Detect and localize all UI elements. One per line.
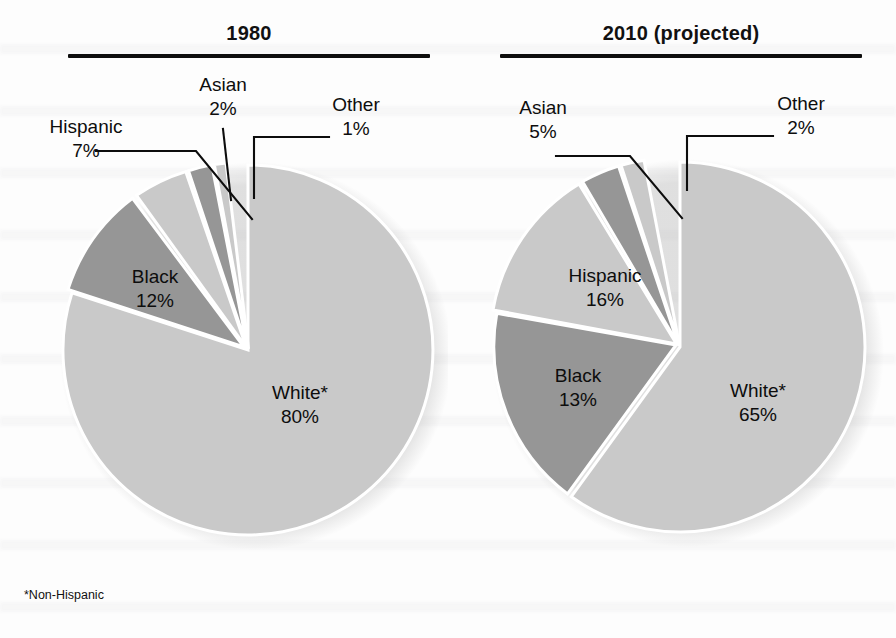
label-white-pct-2010: 65% xyxy=(739,404,777,425)
footnote-non-hispanic: *Non-Hispanic xyxy=(24,588,104,602)
label-asian-name-1980: Asian xyxy=(199,74,247,95)
label-asian-pct-2010: 5% xyxy=(529,121,557,142)
label-black-name-1980: Black xyxy=(132,266,179,287)
label-black-pct-2010: 13% xyxy=(559,389,597,410)
label-other-pct-1980: 1% xyxy=(342,118,370,139)
pie-chart-1980: Hispanic 7% Asian 2% Other 1% Black 12% … xyxy=(0,38,448,638)
label-black-name-2010: Black xyxy=(555,365,602,386)
label-hispanic-pct-2010: 16% xyxy=(586,289,624,310)
label-asian-name-2010: Asian xyxy=(519,97,567,118)
label-white-name-1980: White* xyxy=(272,382,329,403)
label-black-pct-1980: 12% xyxy=(136,290,174,311)
label-hispanic-name-1980: Hispanic xyxy=(50,116,123,137)
label-other-name-1980: Other xyxy=(332,94,380,115)
label-white-name-2010: White* xyxy=(730,380,787,401)
pie-slices-1980 xyxy=(63,163,433,535)
chart-stage: 1980 Hispani xyxy=(0,0,896,638)
label-hispanic-name-2010: Hispanic xyxy=(569,265,642,286)
label-other-pct-2010: 2% xyxy=(787,117,815,138)
label-white-pct-1980: 80% xyxy=(281,406,319,427)
label-asian-pct-1980: 2% xyxy=(209,98,237,119)
pie-chart-2010: Asian 5% Other 2% Hispanic 16% Black 13%… xyxy=(448,38,896,638)
label-other-name-2010: Other xyxy=(777,93,825,114)
label-hispanic-pct-1980: 7% xyxy=(72,140,100,161)
